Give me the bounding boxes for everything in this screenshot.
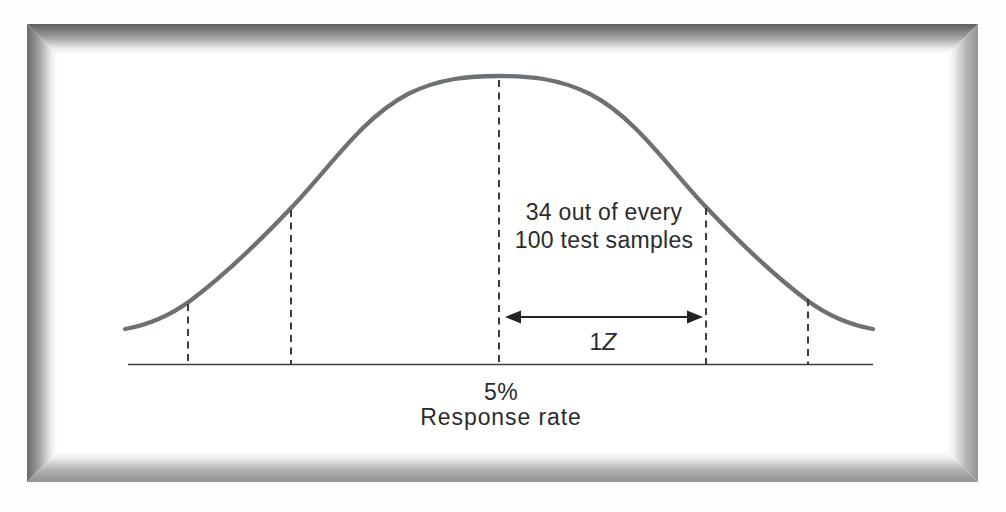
bell-curve-diagram (0, 0, 1006, 512)
sample-annotation-line1: 34 out of every (494, 198, 714, 226)
arrowhead-right-icon (687, 311, 703, 324)
z-interval-symbol: Z (602, 329, 616, 355)
z-interval-label: 1Z (553, 329, 653, 356)
arrowhead-left-icon (505, 311, 521, 324)
figure-canvas: 34 out of every 100 test samples 1Z 5% R… (0, 0, 1006, 512)
sample-annotation-line2: 100 test samples (494, 226, 714, 254)
z-interval-number: 1 (590, 329, 603, 355)
mean-value-label: 5% (431, 379, 571, 406)
x-axis-label: Response rate (391, 404, 611, 431)
sample-annotation: 34 out of every 100 test samples (494, 198, 714, 254)
